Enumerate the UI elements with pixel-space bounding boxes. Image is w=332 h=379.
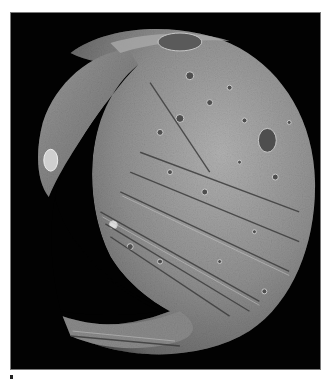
faint-header-text <box>14 0 314 10</box>
lower-ridge <box>63 311 193 348</box>
moon-photograph <box>10 12 321 370</box>
moon-illustration <box>11 13 320 369</box>
caption-mark <box>10 375 13 379</box>
